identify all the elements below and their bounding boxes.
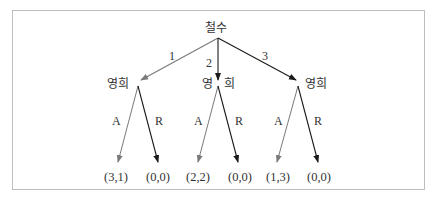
root-player-label: 철수 — [205, 22, 227, 34]
reject-1-label: R — [155, 115, 163, 127]
move-1-label: 1 — [169, 50, 175, 62]
reject-3-label: R — [314, 115, 322, 127]
accept-2-label: A — [194, 115, 203, 127]
edge-accept-1 — [118, 86, 138, 162]
move-3-label: 3 — [262, 50, 268, 62]
reject-2-label: R — [235, 115, 243, 127]
payoff-1-reject: (0,0) — [146, 171, 170, 184]
edge-move-3 — [218, 38, 296, 80]
node-2-player-label-right: 희 — [224, 78, 235, 90]
node-2-player-label-left: 영 — [202, 78, 213, 90]
payoff-1-accept: (3,1) — [104, 171, 128, 184]
node-1-player-label: 영희 — [107, 78, 129, 90]
payoff-3-reject: (0,0) — [307, 171, 331, 184]
move-2-label: 2 — [206, 57, 212, 69]
payoff-2-accept: (2,2) — [186, 171, 210, 184]
payoff-2-reject: (0,0) — [228, 171, 252, 184]
accept-1-label: A — [112, 115, 121, 127]
payoff-3-accept: (1,3) — [266, 171, 290, 184]
accept-3-label: A — [274, 115, 283, 127]
node-3-player-label: 영희 — [305, 78, 327, 90]
